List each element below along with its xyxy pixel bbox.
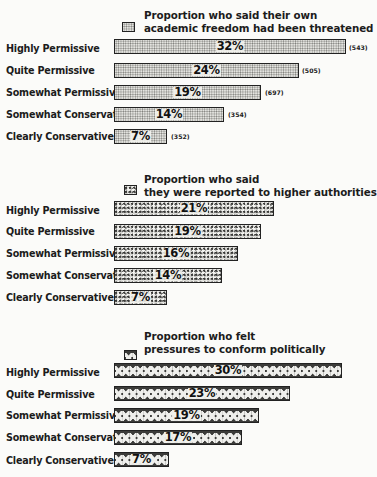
bar-value-label: 30% — [214, 365, 243, 377]
bar-value-label: 19% — [172, 410, 201, 422]
legend-swatch-mottled — [124, 185, 137, 195]
row-label: Somewhat Permissive — [6, 248, 121, 259]
bar: 32% — [114, 39, 346, 54]
legend-label: Proportion who said their own academic f… — [144, 9, 373, 35]
row-label: Clearly Conservative — [6, 455, 114, 466]
legend-swatch-dots — [122, 22, 135, 32]
legend-line-1: Proportion who felt — [144, 330, 325, 343]
row-label: Clearly Conservative — [6, 131, 114, 142]
bar: 14% — [114, 107, 224, 122]
bar-value-label: 23% — [188, 388, 217, 400]
bar-value-label: 24% — [192, 65, 221, 77]
row-label: Quite Permissive — [6, 65, 95, 76]
row-label: Quite Permissive — [6, 389, 95, 400]
bar-value-label: 17% — [164, 432, 193, 444]
bar: 24% — [114, 63, 299, 78]
bar: 7% — [114, 290, 167, 305]
bar-value-label: 7% — [130, 131, 151, 143]
row-label: Somewhat Conservative — [6, 432, 133, 443]
bar: 7% — [114, 452, 169, 467]
legend-line-2: they were reported to higher authorities — [144, 186, 377, 199]
bar: 23% — [114, 386, 290, 401]
bar: 17% — [114, 430, 242, 445]
bar-value-label: 7% — [131, 454, 152, 466]
row-label: Somewhat Permissive — [6, 410, 121, 421]
bar-value-label: 21% — [180, 203, 209, 215]
row-label: Highly Permissive — [6, 205, 100, 216]
bar-value-label: 7% — [130, 292, 151, 304]
row-label: Quite Permissive — [6, 226, 95, 237]
legend-swatch-x-hatch — [124, 350, 137, 360]
row-label: Highly Permissive — [6, 367, 100, 378]
row-label: Somewhat Conservative — [6, 270, 133, 281]
bar-value-label: 14% — [155, 109, 184, 121]
bar: 16% — [114, 246, 238, 261]
legend-line-2: pressures to conform politically — [144, 343, 325, 356]
sample-size-label: (697) — [265, 89, 284, 96]
bar: 19% — [114, 224, 261, 239]
sample-size-label: (505) — [302, 67, 321, 74]
legend-label: Proportion who felt pressures to conform… — [144, 330, 325, 356]
row-label: Clearly Conservative — [6, 292, 114, 303]
row-label: Somewhat Permissive — [6, 87, 121, 98]
bar: 14% — [114, 268, 222, 283]
bar: 30% — [114, 363, 342, 378]
bar-value-label: 16% — [162, 248, 191, 260]
sample-size-label: (352) — [171, 133, 190, 140]
legend-line-1: Proportion who said — [144, 173, 377, 186]
bar-value-label: 19% — [173, 87, 202, 99]
row-label: Highly Permissive — [6, 43, 100, 54]
bar-value-label: 19% — [173, 226, 202, 238]
bar-value-label: 32% — [216, 41, 245, 53]
bar: 19% — [114, 408, 259, 423]
bar: 7% — [114, 129, 167, 144]
bar: 21% — [114, 201, 274, 216]
legend-line-2: academic freedom had been threatened — [144, 22, 373, 35]
sample-size-label: (354) — [228, 111, 247, 118]
legend-label: Proportion who said they were reported t… — [144, 173, 377, 199]
legend-line-1: Proportion who said their own — [144, 9, 373, 22]
chart-panel-academic-freedom: Proportion who said their own academic f… — [0, 0, 368, 160]
bar: 19% — [114, 85, 261, 100]
bar-value-label: 14% — [154, 270, 183, 282]
sample-size-label: (543) — [349, 44, 368, 51]
